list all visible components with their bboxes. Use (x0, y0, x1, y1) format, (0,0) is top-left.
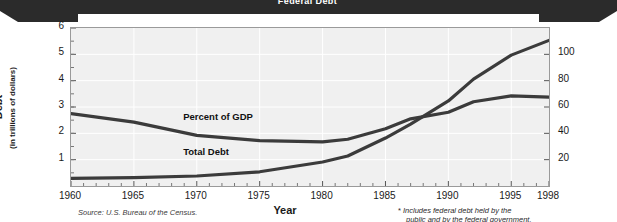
source-note: Source: U.S. Bureau of the Census. (78, 208, 197, 217)
series-line-percent-of-gdp (71, 96, 549, 142)
x-tick-1990: 1990 (427, 190, 467, 201)
x-tick-1960: 1960 (50, 190, 90, 201)
x-tick-1970: 1970 (176, 190, 216, 201)
y-axis-left-subtitle: (in trillions of dollars) (8, 60, 17, 156)
y-tick-left-6: 6 (58, 20, 64, 31)
x-tick-1980: 1980 (302, 190, 342, 201)
y-tick-left-5: 5 (58, 46, 64, 57)
y-tick-right-60: 60 (558, 99, 569, 110)
y-tick-right-20: 20 (558, 152, 569, 163)
y-tick-left-2: 2 (58, 125, 64, 136)
plot-area (70, 27, 550, 187)
footnote-line-2: public and by the federal government. (398, 215, 532, 222)
y-tick-left-1: 1 (58, 152, 64, 163)
y-tick-left-3: 3 (58, 99, 64, 110)
x-tick-1965: 1965 (113, 190, 153, 201)
series-label-total-debt: Total Debt (183, 146, 229, 157)
banner-title: Federal Debt (74, 0, 541, 4)
x-tick-1998: 1998 (528, 190, 568, 201)
y-tick-left-4: 4 (58, 73, 64, 84)
y-tick-right-40: 40 (558, 125, 569, 136)
series-line-total-debt (71, 40, 549, 178)
title-banner: Federal Debt (0, 0, 617, 22)
footnote-line-1: Includes federal debt held by the (403, 206, 511, 215)
footnote-marker: * (398, 206, 401, 215)
series-label-percent-of-gdp: Percent of GDP (183, 111, 253, 122)
y-tick-right-80: 80 (558, 73, 569, 84)
y-axis-left-title: Debt (0, 62, 4, 152)
y-tick-right-100: 100 (558, 46, 575, 57)
x-axis-title: Year (250, 204, 320, 216)
x-tick-1975: 1975 (239, 190, 279, 201)
x-tick-1985: 1985 (364, 190, 404, 201)
x-tick-1995: 1995 (490, 190, 530, 201)
banner-notch-right (539, 14, 553, 22)
footnote: * Includes federal debt held by the publ… (398, 206, 578, 222)
line-chart: Debt (in trillions of dollars) Percent Y… (0, 22, 617, 222)
plot-canvas (71, 28, 549, 186)
banner-notch-left (62, 14, 76, 22)
